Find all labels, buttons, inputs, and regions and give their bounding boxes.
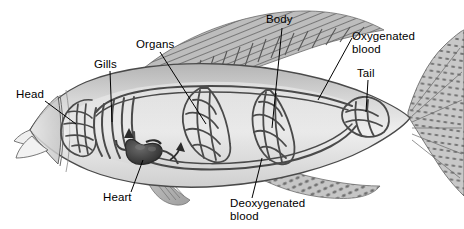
label-oxygenated-blood-line1: Oxygenated [352,30,415,43]
fish-circulatory-diagram: Head Gills Organs Body Oxygenated blood … [0,0,464,229]
label-tail: Tail [357,67,375,80]
label-oxygenated-blood-line2: blood [352,43,415,56]
label-gills: Gills [94,58,117,71]
label-heart: Heart [103,191,132,204]
label-deoxygenated-blood-line2: blood [230,210,305,223]
label-oxygenated-blood: Oxygenated blood [352,30,415,55]
label-head: Head [16,88,44,101]
label-body: Body [266,13,293,26]
label-deoxygenated-blood: Deoxygenated blood [230,197,305,222]
caudal-fin [408,30,464,196]
label-organs: Organs [136,38,174,51]
label-deoxygenated-blood-line1: Deoxygenated [230,197,305,210]
